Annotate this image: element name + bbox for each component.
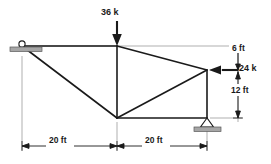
dimension-label-left-20ft: 20 ft [49, 136, 66, 145]
truss-diagram-svg [0, 0, 271, 164]
load-36k-arrowhead [112, 34, 122, 46]
load-arrow-36k [112, 21, 122, 46]
dim-left-arrow-start [22, 144, 29, 149]
truss-members [22, 46, 207, 118]
dimension-label-6ft: 6 ft [232, 44, 245, 53]
pin-triangle-icon [201, 118, 214, 127]
load-arrow-24k [209, 65, 238, 74]
member-BC [117, 46, 207, 70]
pin-base-hatch [194, 127, 221, 132]
dimension-label-right-20ft: 20 ft [145, 136, 162, 145]
vertical-dimension-chain [233, 46, 243, 118]
member-AD [22, 46, 117, 118]
dimension-label-12ft: 12 ft [231, 86, 248, 95]
member-CD [117, 70, 207, 118]
dim-12ft-arrow-down [236, 111, 241, 118]
roller-base-hatch [10, 47, 42, 52]
dim-right-arrow-start [117, 144, 124, 149]
roller-circle-icon [19, 41, 25, 47]
load-label-36k: 36 k [101, 8, 119, 17]
load-24k-arrowhead [209, 65, 221, 74]
right-support-pin [194, 118, 221, 132]
load-label-24k: 24 k [239, 64, 257, 73]
dim-right-arrow-end [200, 144, 207, 149]
dim-12ft-arrow-up [236, 72, 241, 79]
truss-diagram-figure: 36 k 6 ft 24 k 12 ft 20 ft 20 ft [0, 0, 271, 164]
extension-lines [18, 42, 242, 150]
